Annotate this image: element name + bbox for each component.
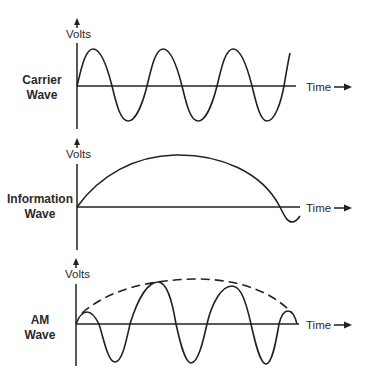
information-y-axis-label: Volts: [66, 148, 91, 160]
am-wave-curve: [76, 282, 297, 364]
am-y-axis-label: Volts: [65, 268, 90, 280]
am-modulation-diagram: Volts Carrier Wave Time Volts Informatio…: [0, 0, 367, 381]
information-label-line2: Wave: [25, 207, 56, 221]
carrier-x-axis-label: Time: [306, 81, 331, 93]
am-label-line1: AM: [31, 313, 50, 327]
information-x-axis-label: Time: [306, 202, 331, 214]
information-wave-curve: [77, 155, 300, 222]
carrier-y-axis-label: Volts: [66, 28, 91, 40]
am-panel: Volts AM Wave Time: [25, 258, 352, 366]
am-x-axis-label: Time: [306, 319, 331, 331]
carrier-panel: Volts Carrier Wave Time: [22, 18, 352, 129]
carrier-label-line2: Wave: [27, 88, 58, 102]
information-label-line1: Information: [7, 192, 73, 206]
carrier-wave-curve: [77, 49, 290, 121]
am-envelope-dashed: [82, 279, 292, 313]
am-label-line2: Wave: [25, 328, 56, 342]
carrier-label-line1: Carrier: [22, 73, 62, 87]
information-panel: Volts Information Wave Time: [7, 138, 352, 250]
